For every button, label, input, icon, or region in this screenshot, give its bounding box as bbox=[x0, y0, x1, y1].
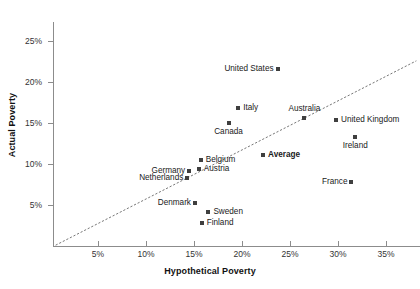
data-point[interactable] bbox=[199, 158, 203, 162]
x-tick-label: 30% bbox=[318, 250, 358, 259]
data-point[interactable] bbox=[187, 169, 191, 173]
data-point[interactable] bbox=[261, 153, 265, 157]
scatter-chart: 5%10%15%20%25% 5%10%15%20%25%30%35% Hypo… bbox=[0, 0, 420, 289]
y-tick-mark bbox=[48, 41, 54, 42]
data-point[interactable] bbox=[302, 116, 306, 120]
x-tick-mark bbox=[146, 241, 147, 247]
x-tick-label: 35% bbox=[366, 250, 406, 259]
data-point[interactable] bbox=[276, 67, 280, 71]
data-point[interactable] bbox=[334, 118, 338, 122]
x-tick-label: 15% bbox=[174, 250, 214, 259]
data-point-label: Canada bbox=[214, 128, 243, 136]
data-point-label: United Kingdom bbox=[341, 116, 399, 124]
y-tick-mark bbox=[48, 123, 54, 124]
y-tick-label: 25% bbox=[0, 37, 42, 46]
data-point[interactable] bbox=[200, 221, 204, 225]
cropped-title-strip bbox=[0, 0, 420, 8]
y-tick-mark bbox=[48, 205, 54, 206]
x-tick-mark bbox=[194, 241, 195, 247]
data-point[interactable] bbox=[193, 201, 197, 205]
y-tick-mark bbox=[48, 164, 54, 165]
data-point[interactable] bbox=[349, 180, 353, 184]
data-point-label: United States bbox=[224, 65, 273, 73]
data-point-label: Denmark bbox=[158, 199, 191, 207]
x-tick-mark bbox=[242, 241, 243, 247]
data-point[interactable] bbox=[206, 210, 210, 214]
x-tick-label: 25% bbox=[270, 250, 310, 259]
data-point-label: France bbox=[322, 178, 347, 186]
data-point-label: Australia bbox=[288, 105, 320, 113]
data-point[interactable] bbox=[353, 135, 357, 139]
data-point[interactable] bbox=[227, 121, 231, 125]
x-axis-line bbox=[53, 246, 420, 247]
data-point-label: Finland bbox=[207, 219, 234, 227]
data-point-label: Belgium bbox=[206, 156, 236, 164]
x-tick-mark bbox=[290, 241, 291, 247]
data-point-label: Sweden bbox=[213, 208, 243, 216]
y-axis-line bbox=[53, 22, 54, 247]
data-point[interactable] bbox=[197, 167, 201, 171]
data-point-label: Average bbox=[268, 151, 300, 159]
x-tick-mark bbox=[386, 241, 387, 247]
data-point[interactable] bbox=[185, 176, 189, 180]
data-point-label: Netherlands bbox=[139, 174, 183, 182]
data-point-label: Austria bbox=[204, 165, 229, 173]
x-tick-label: 10% bbox=[126, 250, 166, 259]
y-axis-title: Actual Poverty bbox=[7, 65, 17, 185]
data-point-label: Ireland bbox=[343, 142, 368, 150]
x-tick-label: 20% bbox=[222, 250, 262, 259]
data-point[interactable] bbox=[236, 106, 240, 110]
x-tick-label: 5% bbox=[78, 250, 118, 259]
x-tick-mark bbox=[98, 241, 99, 247]
y-tick-mark bbox=[48, 82, 54, 83]
y-tick-label: 5% bbox=[0, 201, 42, 210]
data-point-label: Italy bbox=[243, 104, 258, 112]
x-tick-mark bbox=[338, 241, 339, 247]
x-axis-title: Hypothetical Poverty bbox=[0, 266, 420, 276]
